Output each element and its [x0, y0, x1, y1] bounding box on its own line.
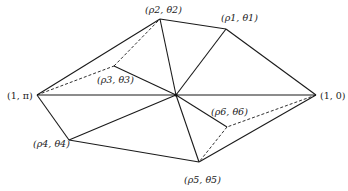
- vertex-label-p1: (ρ1, θ1): [221, 12, 258, 23]
- dashed-edge-p3-p2: [114, 19, 160, 66]
- solid-edge-center-p2: [160, 19, 176, 95]
- solid-edge-center-p5: [176, 95, 199, 162]
- solid-edge-left-p4: [37, 95, 69, 140]
- vertex-label-p6: (ρ6, θ6): [211, 106, 248, 117]
- solid-edge-center-p1: [176, 29, 226, 95]
- solid-edge-p4-p5: [69, 140, 199, 162]
- edges: [37, 19, 316, 162]
- solid-edge-p2-p1: [160, 19, 226, 29]
- dashed-edge-p6-p5: [199, 127, 227, 162]
- vertex-label-right: (1, 0): [320, 90, 346, 101]
- vertex-label-p2: (ρ2, θ2): [145, 4, 182, 15]
- center-point: [174, 93, 177, 96]
- vertex-label-p3: (ρ3, θ3): [97, 74, 134, 85]
- solid-edge-center-p4: [69, 95, 176, 140]
- vertex-label-p5: (ρ5, θ5): [184, 174, 221, 185]
- polar-triangulation-diagram: (ρ1, θ1)(ρ2, θ2)(ρ3, θ3)(ρ4, θ4)(ρ5, θ5)…: [0, 0, 348, 191]
- vertex-label-left: (1, π): [7, 90, 33, 101]
- vertex-label-p4: (ρ4, θ4): [33, 138, 70, 149]
- solid-edge-p1-right: [226, 29, 316, 95]
